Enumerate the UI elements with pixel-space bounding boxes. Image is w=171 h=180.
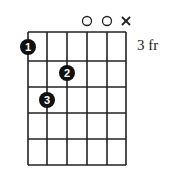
finger-dot-2: 2: [59, 65, 75, 81]
svg-text:3: 3: [44, 94, 50, 106]
chord-diagram: 1 2 3: [0, 0, 171, 180]
finger-dot-1: 1: [20, 39, 36, 55]
open-string-icon: [83, 17, 92, 26]
finger-dot-3: 3: [39, 92, 55, 108]
fret-position-label: 3 fr: [137, 37, 158, 54]
svg-text:1: 1: [25, 41, 31, 53]
svg-text:2: 2: [64, 67, 70, 79]
muted-string-icon: [122, 17, 130, 25]
open-string-markers: [83, 17, 131, 26]
open-string-icon: [103, 17, 112, 26]
